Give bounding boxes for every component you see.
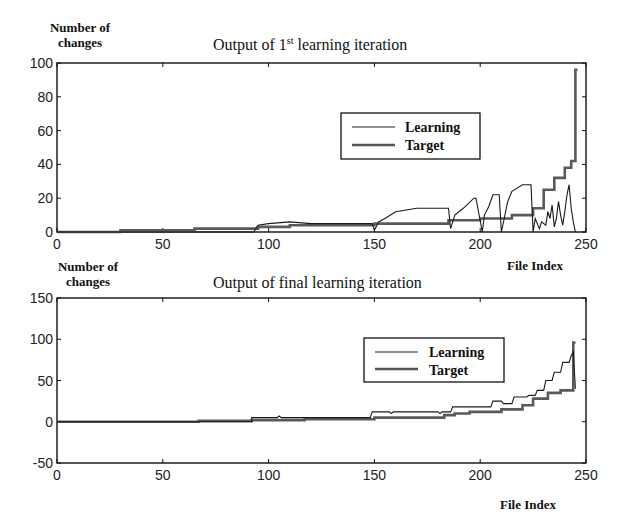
x-tick-label: 100	[257, 467, 281, 483]
chart1-legend: Learning Target	[341, 113, 480, 159]
chart2-legend: Learning Target	[364, 338, 504, 382]
x-tick-label: 200	[469, 236, 493, 252]
x-tick-label: 0	[53, 467, 61, 483]
x-tick-label: 250	[574, 236, 598, 252]
x-tick-label: 0	[53, 236, 61, 252]
x-tick-label: 100	[257, 236, 281, 252]
y-tick-label: 150	[30, 290, 54, 306]
y-tick-label: 100	[30, 55, 54, 71]
y-tick-label: -50	[33, 455, 53, 471]
legend-target-label: Target	[429, 363, 468, 378]
y-tick-label: 50	[37, 373, 53, 389]
legend-target-label: Target	[405, 138, 444, 153]
x-tick-label: 150	[363, 236, 387, 252]
legend-learning-label: Learning	[405, 120, 460, 135]
y-tick-label: 0	[45, 224, 53, 240]
y-tick-label: 40	[37, 156, 53, 172]
y-tick-label: 0	[45, 414, 53, 430]
y-tick-label: 60	[37, 123, 53, 139]
charts-canvas: 050100150200250020406080100 050100150200…	[0, 0, 624, 527]
x-tick-label: 50	[155, 236, 171, 252]
plot-frame	[57, 298, 586, 463]
x-tick-label: 150	[363, 467, 387, 483]
chart2-plot: 050100150200250-50050100150	[30, 290, 598, 483]
y-tick-label: 100	[30, 331, 54, 347]
y-tick-label: 80	[37, 89, 53, 105]
x-tick-label: 50	[155, 467, 171, 483]
x-tick-label: 250	[574, 467, 598, 483]
x-tick-label: 200	[469, 467, 493, 483]
chart1-plot: 050100150200250020406080100	[30, 55, 598, 252]
legend-learning-label: Learning	[429, 345, 484, 360]
y-tick-label: 20	[37, 190, 53, 206]
